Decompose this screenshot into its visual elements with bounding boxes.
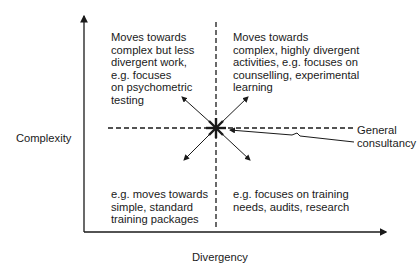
x-axis-label: Divergency: [192, 251, 248, 264]
arrow-top-right: [220, 97, 248, 124]
quadrant-bottom-right-text: e.g. focuses on training needs, audits, …: [233, 188, 349, 213]
arrow-bottom-left: [184, 132, 212, 160]
consultancy-pointer: [230, 130, 354, 142]
general-consultancy-label: General consultancy: [357, 124, 416, 149]
arrow-bottom-right: [220, 132, 250, 160]
quadrant-top-right-text: Moves towards complex, highly divergent …: [233, 31, 359, 94]
quadrant-bottom-left-text: e.g. moves towards simple, standard trai…: [111, 188, 208, 226]
quadrant-top-left-text: Moves towards complex but less divergent…: [111, 31, 194, 107]
y-axis-label: Complexity: [16, 132, 71, 145]
